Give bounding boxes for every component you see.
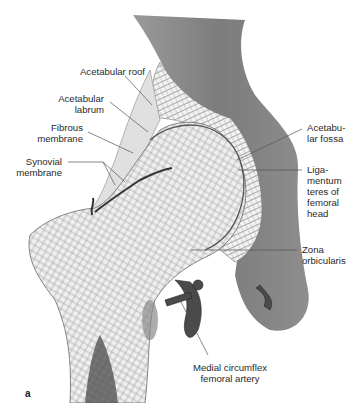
label-zona-orbicularis-line1: Zona [302,244,324,256]
label-zona-orbicularis-line2: orbicularis [302,255,346,267]
label-ligamentum-line5: head [307,208,328,220]
label-fibrous-membrane-line2: membrane [20,133,83,145]
label-medial-circumflex-line2: femoral artery [180,373,280,385]
hip-joint-illustration: Acetabular roof Acetabular labrum Fibrou… [0,0,363,403]
label-acetabular-roof: Acetabular roof [50,66,145,78]
label-ligamentum-line4: femoral [307,197,339,209]
label-ligamentum-line1: Liga- [307,164,328,176]
label-acetabular-labrum-line2: labrum [40,104,104,116]
label-synovial-membrane-line2: membrane [0,167,62,179]
label-ligamentum-line3: teres of [307,186,339,198]
label-ligamentum-line2: mentum [307,175,342,187]
label-acetabular-fossa-line1: Acetabu- [307,122,345,134]
label-acetabular-labrum-line1: Acetabular [40,93,104,105]
iliopsoas-bursa [142,300,158,340]
label-fibrous-membrane-line1: Fibrous [20,122,83,134]
panel-label: a [25,388,31,399]
label-acetabular-fossa-line2: lar fossa [307,133,343,145]
label-medial-circumflex-line1: Medial circumflex [180,362,280,374]
label-synovial-membrane-line1: Synovial [0,156,62,168]
